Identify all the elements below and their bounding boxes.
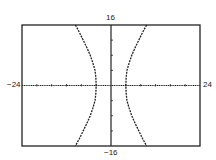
y-max-label: 16 xyxy=(106,14,115,22)
x-min-label: −24 xyxy=(7,81,21,89)
y-min-label: −16 xyxy=(104,149,118,157)
x-max-label: 24 xyxy=(203,81,212,89)
axes xyxy=(22,25,200,146)
graph-plot xyxy=(0,0,216,160)
